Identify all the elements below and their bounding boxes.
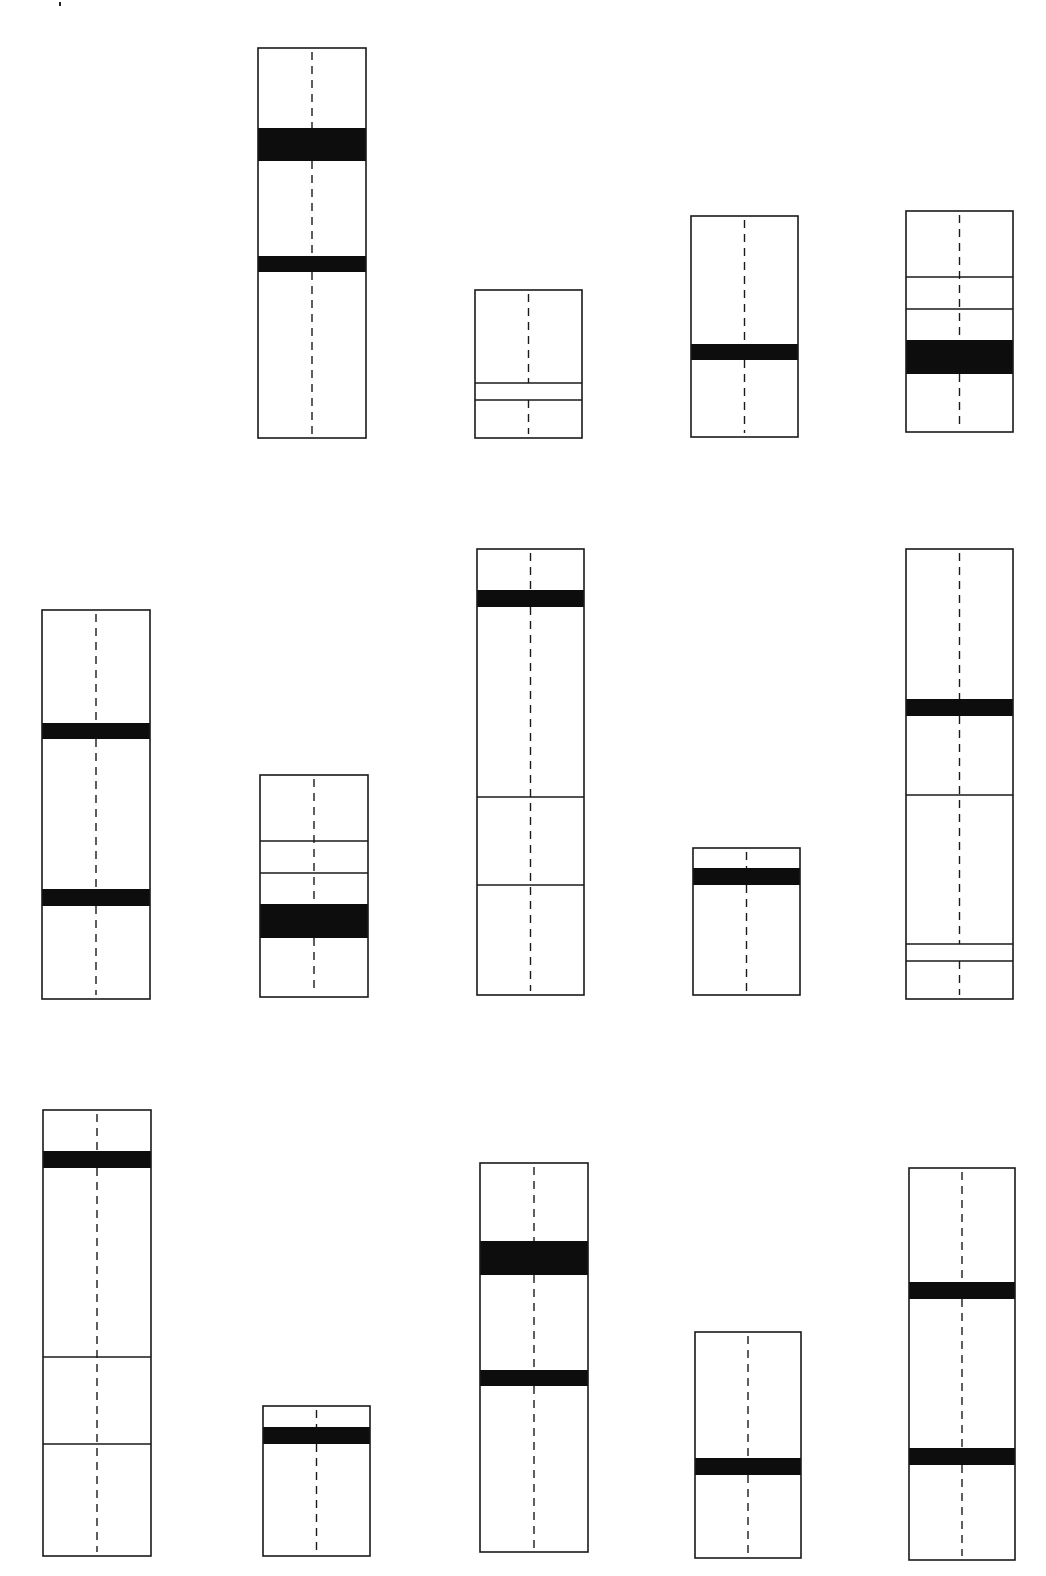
box-background [43,1110,151,1556]
box-background [480,1163,588,1552]
black-band [260,904,368,938]
figure-box-g [477,549,584,995]
speck-mark [59,2,61,6]
black-band [477,590,584,607]
black-band [42,889,150,906]
black-band [43,1151,151,1168]
black-band [909,1448,1015,1465]
figure-box-f [260,775,368,997]
figure-box-j [43,1110,151,1556]
figure-box-b [475,290,582,438]
black-band [263,1427,370,1444]
black-band [480,1241,588,1275]
black-band [906,699,1013,716]
box-background [258,48,366,438]
figure-canvas [0,0,1046,1576]
black-band [691,344,798,360]
figure-box-a [258,48,366,438]
figure-box-m [695,1332,801,1558]
black-band [258,256,366,272]
black-band [42,723,150,739]
black-band [909,1282,1015,1299]
black-band [695,1458,801,1475]
figure-box-i [906,549,1013,999]
figure-box-n [909,1168,1015,1560]
figure-box-e [42,610,150,999]
black-band [693,868,800,885]
box-background [477,549,584,995]
figure-box-l [480,1163,588,1552]
black-band [480,1370,588,1386]
black-band [258,128,366,161]
figure-box-h [693,848,800,995]
black-band [906,340,1013,374]
figure-box-k [263,1406,370,1556]
box-background [909,1168,1015,1560]
figure-box-c [691,216,798,437]
figure-box-d [906,211,1013,432]
